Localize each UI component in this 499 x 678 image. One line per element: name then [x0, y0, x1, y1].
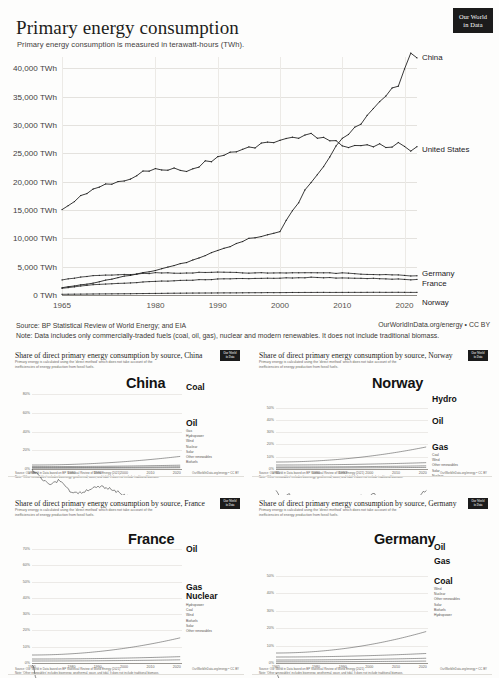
subchart-y-tick-label: 60% — [23, 411, 30, 415]
subchart-y-tick-label: 60% — [23, 563, 30, 567]
subchart-gridline — [276, 663, 428, 664]
subchart-y-tick-label: 40% — [23, 430, 30, 434]
owid-logo-small-line2: in Data — [226, 503, 235, 507]
subchart-y-tick-label: 30% — [267, 609, 274, 613]
subchart-title-france: Share of direct primary energy consumpti… — [15, 499, 205, 508]
subchart-legend-item: Other renewables — [434, 597, 460, 602]
main-x-tick-label: 1980 — [146, 301, 164, 310]
subchart-series-label-oil: Oil — [186, 544, 197, 554]
subchart-credit-germany[interactable]: OurWorldInData.org/energy • CC BY — [440, 667, 487, 671]
subchart-x-tick-label: 2020 — [173, 471, 181, 475]
subchart-subtitle-norway: Primary energy is calculated using the '… — [259, 360, 417, 371]
owid-logo-small-line2: in Data — [474, 355, 483, 359]
subchart-y-tick-label: 40% — [267, 418, 274, 422]
subchart-legend-germany: WindNuclearOther renewablesSolarBiofuels… — [434, 587, 460, 618]
main-x-tick-label: 2000 — [271, 301, 289, 310]
owid-logo-small-france[interactable]: Our Worldin Data — [220, 498, 240, 509]
subchart-legend-item: Other renewables — [432, 463, 458, 468]
owid-logo-line2: in Data — [463, 21, 482, 28]
subchart-y-tick-label: 20% — [23, 448, 30, 452]
main-credit[interactable]: OurWorldInData.org/energy • CC BY — [378, 321, 490, 328]
subchart-series-label-gas: Gas — [432, 442, 448, 452]
subchart-x-tick-label: 2020 — [419, 665, 427, 669]
main-note: Note: Data includes only commercially-tr… — [16, 331, 439, 341]
main-source-notes: Source: BP Statistical Review of World E… — [16, 321, 439, 341]
subchart-series-label-nuclear: Nuclear — [186, 591, 218, 601]
subchart-norway: Share of direct primary energy consumpti… — [252, 347, 492, 477]
subchart-series-label-hydro: Hydro — [432, 394, 457, 404]
owid-logo[interactable]: Our World in Data — [453, 8, 493, 33]
main-series-label-germany: Germany — [422, 268, 454, 277]
main-y-tick-label: 5,000 TWh — [18, 262, 57, 271]
subchart-y-tick-label: 80% — [23, 392, 30, 396]
subchart-title-germany: Share of direct primary energy consumpti… — [259, 499, 456, 508]
subchart-plot-norway: 0%10%20%30%40%50%19651980199020002010202… — [276, 383, 428, 469]
main-y-tick-label: 10,000 TWh — [13, 234, 57, 243]
subchart-y-tick-label: 30% — [267, 430, 274, 434]
subchart-series-label-gas: Gas — [434, 556, 450, 566]
subchart-y-tick-label: 50% — [23, 580, 30, 584]
main-plot-area: 0 TWh5,000 TWh10,000 TWh15,000 TWh20,000… — [62, 57, 417, 295]
subchart-divider — [8, 476, 244, 477]
main-y-tick-label: 25,000 TWh — [13, 149, 57, 158]
subchart-title-norway: Share of direct primary energy consumpti… — [259, 351, 453, 360]
subchart-gridline — [276, 469, 428, 470]
subchart-y-tick-label: 40% — [267, 591, 274, 595]
subchart-divider — [252, 476, 492, 477]
main-source: Source: BP Statistical Review of World E… — [16, 321, 439, 331]
subchart-legend-item: Hydropower — [434, 613, 460, 618]
owid-logo-small-norway[interactable]: Our Worldin Data — [468, 350, 488, 361]
page-subtitle: Primary energy consumption is measured i… — [17, 40, 244, 49]
subchart-grid: Share of direct primary energy consumpti… — [0, 345, 499, 678]
subchart-y-tick-label: 20% — [267, 442, 274, 446]
subchart-y-tick-label: 70% — [23, 547, 30, 551]
subchart-legend-china: GasHydropowerWindNuclearSolarOther renew… — [186, 429, 212, 465]
owid-logo-small-line2: in Data — [226, 355, 235, 359]
subchart-credit-norway[interactable]: OurWorldInData.org/energy • CC BY — [440, 471, 487, 475]
main-series-label-china: China — [422, 53, 443, 62]
subchart-title-china: Share of direct primary energy consumpti… — [15, 351, 202, 360]
main-y-tick-label: 40,000 TWh — [13, 64, 57, 73]
owid-logo-small-china[interactable]: Our Worldin Data — [220, 350, 240, 361]
main-y-tick-label: 35,000 TWh — [13, 92, 57, 101]
main-x-tick-label: 1965 — [53, 301, 71, 310]
owid-logo-small-germany[interactable]: Our Worldin Data — [468, 498, 488, 509]
subchart-y-tick-label: 20% — [23, 628, 30, 632]
subchart-series-label-oil: Oil — [434, 542, 445, 552]
subchart-x-tick-label: 2020 — [173, 665, 181, 669]
subchart-subtitle-france: Primary energy is calculated using the '… — [15, 508, 173, 519]
main-x-tick-label: 2020 — [396, 301, 414, 310]
subchart-credit-china[interactable]: OurWorldInData.org/energy • CC BY — [192, 471, 239, 475]
subchart-divider — [252, 674, 492, 675]
subchart-series-label-oil: Oil — [186, 418, 197, 428]
subchart-legend-item: Other renewables — [186, 629, 212, 634]
main-series-label-united-states: United States — [422, 144, 469, 153]
subchart-y-tick-label: 50% — [267, 406, 274, 410]
subchart-gridline — [32, 469, 182, 470]
subchart-germany: Share of direct primary energy consumpti… — [252, 495, 492, 675]
subchart-y-tick-label: 40% — [23, 596, 30, 600]
main-gridline — [62, 295, 417, 296]
subchart-divider — [8, 674, 244, 675]
main-series-label-france: France — [422, 278, 447, 287]
main-y-tick-label: 0 TWh — [33, 291, 57, 300]
main-y-tick-label: 20,000 TWh — [13, 177, 57, 186]
subchart-y-tick-label: 10% — [267, 644, 274, 648]
main-y-tick-label: 15,000 TWh — [13, 206, 57, 215]
subchart-series-label-coal: Coal — [434, 576, 453, 586]
main-y-tick-label: 30,000 TWh — [13, 121, 57, 130]
subchart-legend-france: HydropowerCoalWindBiofuelsSolarOther ren… — [186, 603, 212, 634]
subchart-subtitle-germany: Primary energy is calculated using the '… — [259, 508, 417, 519]
subchart-y-tick-label: 20% — [267, 626, 274, 630]
subchart-credit-france[interactable]: OurWorldInData.org/energy • CC BY — [192, 667, 239, 671]
subchart-subtitle-china: Primary energy is calculated using the '… — [15, 360, 173, 371]
subchart-series-label-coal: Coal — [186, 382, 205, 392]
main-series-label-norway: Norway — [422, 297, 449, 306]
subchart-x-tick-label: 2020 — [419, 471, 427, 475]
subchart-y-tick-label: 30% — [23, 612, 30, 616]
owid-logo-line1: Our World — [459, 13, 487, 20]
subchart-plot-china: 0%20%40%60%80%196519801990200020102020 — [32, 385, 182, 469]
main-x-tick-label: 2010 — [333, 301, 351, 310]
main-chart: Primary energy consumption Primary energ… — [0, 0, 499, 345]
subchart-y-tick-label: 10% — [23, 645, 30, 649]
